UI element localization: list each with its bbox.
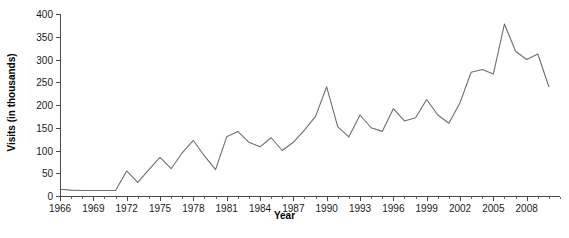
y-tick-label: 400 [36, 9, 53, 20]
visits-line-path [60, 24, 549, 191]
y-tick-label: 0 [47, 191, 53, 202]
y-tick-label: 250 [36, 77, 53, 88]
y-tick-label: 150 [36, 123, 53, 134]
data-series-visits [60, 24, 549, 191]
y-tick-label: 100 [36, 146, 53, 157]
y-axis: 050100150200250300350400 [36, 9, 60, 202]
y-tick-label: 200 [36, 100, 53, 111]
x-axis-title: Year [0, 210, 569, 221]
line-chart-canvas: 050100150200250300350400 196619691972197… [0, 0, 569, 238]
y-tick-label: 50 [42, 168, 54, 179]
y-axis-title-wrapper: Visits (in thousands) [2, 0, 20, 205]
chart-figure: 050100150200250300350400 196619691972197… [0, 0, 569, 238]
y-tick-label: 300 [36, 55, 53, 66]
y-tick-label: 350 [36, 32, 53, 43]
y-axis-title: Visits (in thousands) [6, 53, 17, 151]
